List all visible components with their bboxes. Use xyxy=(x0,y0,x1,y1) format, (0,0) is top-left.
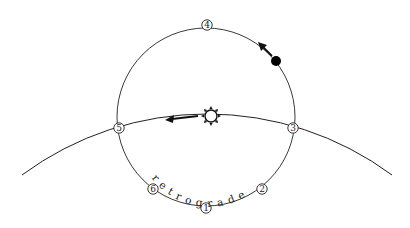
epicycle-diagram: 4 5 3 6 1 2 retrograde xyxy=(0,0,410,228)
svg-text:5: 5 xyxy=(116,123,122,133)
position-marker-5: 5 xyxy=(114,123,124,133)
svg-text:4: 4 xyxy=(204,20,210,30)
svg-text:6: 6 xyxy=(150,184,156,194)
svg-text:3: 3 xyxy=(290,123,296,133)
deferent-arc xyxy=(22,114,392,175)
position-marker-4: 4 xyxy=(202,20,212,30)
planet-dot xyxy=(271,56,281,66)
position-marker-2: 2 xyxy=(257,184,267,194)
sun-icon xyxy=(201,106,221,126)
svg-text:2: 2 xyxy=(259,184,265,194)
retrograde-label: retrograde xyxy=(150,172,251,209)
planet-direction-arrow xyxy=(258,42,272,56)
position-marker-3: 3 xyxy=(288,123,298,133)
